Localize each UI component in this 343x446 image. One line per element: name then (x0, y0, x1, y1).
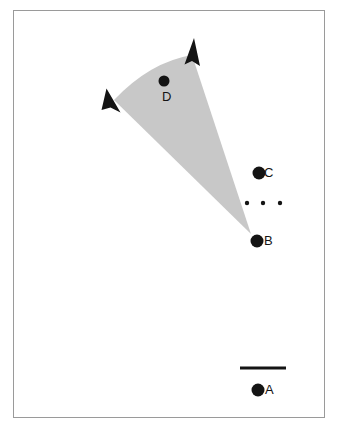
point-label-B: B (264, 234, 273, 247)
ellipsis-dot-2 (261, 201, 265, 205)
data-point-D (159, 76, 170, 87)
point-label-A: A (265, 383, 274, 396)
ellipsis-dot-3 (278, 201, 282, 205)
data-point-B (251, 235, 264, 248)
point-label-D: D (162, 90, 171, 103)
shaded-cone-wedge (114, 55, 251, 234)
point-label-C: C (264, 166, 273, 179)
data-point-A (252, 384, 265, 397)
figure-canvas (0, 0, 343, 446)
ellipsis-dot-1 (245, 201, 249, 205)
scale-bar (240, 367, 286, 370)
figure-root: D C B A (0, 0, 343, 446)
